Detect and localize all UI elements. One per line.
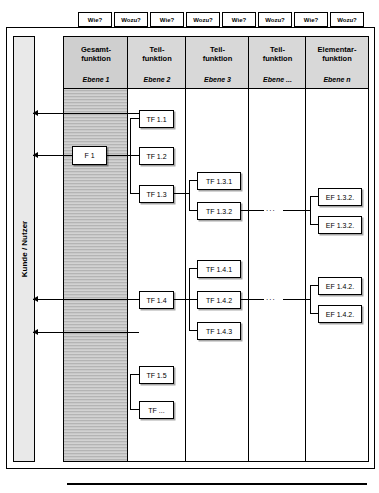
connector-ef142-spine (310, 285, 311, 313)
function-box-tf1-4-1[interactable]: TF 1.4.1 (197, 260, 241, 278)
connector-tf14-c (189, 330, 197, 331)
connector-ef142-a (310, 285, 318, 286)
function-box-tf1-4[interactable]: TF 1.4 (139, 291, 174, 309)
connector-tf14-out (172, 299, 190, 300)
connector-tf14-a (189, 268, 197, 269)
function-box-ef1-3-2-b[interactable]: EF 1.3.2. (318, 216, 362, 234)
question-box-7: Wozu? (330, 12, 364, 27)
function-box-tf1-1[interactable]: TF 1.1 (139, 110, 174, 128)
column-title-5: Elementar- funktion (306, 37, 368, 72)
question-box-5: Wozu? (258, 12, 292, 27)
customer-lane: Kunde / Nutzer (13, 36, 35, 462)
function-box-ef1-4-2-a[interactable]: EF 1.4.2. (318, 277, 362, 295)
function-box-tf1-3-1[interactable]: TF 1.3.1 (197, 172, 241, 190)
connector-tf13-a (189, 180, 197, 181)
question-box-4: Wie? (222, 12, 256, 27)
connector-ef132-a (310, 196, 318, 197)
question-box-6: Wie? (294, 12, 328, 27)
connector-tf142-ef2 (283, 299, 311, 300)
column-level-1: Ebene 1 (64, 71, 128, 89)
connector-lower-spine (130, 374, 131, 409)
connector-ef142-b (310, 313, 318, 314)
function-box-tf-dots[interactable]: TF ... (139, 401, 174, 419)
connector-tf13-b (189, 210, 197, 211)
column-title-4: Teil- funktion (249, 37, 306, 72)
function-box-tf1-4-2[interactable]: TF 1.4.2 (197, 291, 241, 309)
connector-customer-4 (33, 332, 139, 333)
connector-tf14-b (189, 299, 197, 300)
column-elementarfunktion: Elementar- funktion Ebene n (305, 36, 369, 462)
function-box-tf1-3[interactable]: TF 1.3 (139, 185, 174, 203)
column-title-1: Gesamt- funktion (64, 37, 128, 72)
connector-tf132-ef (239, 210, 264, 211)
ellipsis-lower: ... (266, 293, 276, 302)
bottom-rule (67, 483, 367, 485)
arrow-customer-3 (33, 296, 38, 302)
connector-tf13-out (172, 193, 190, 194)
question-box-0: Wie? (78, 12, 112, 27)
connector-customer-3 (33, 299, 139, 300)
connector-ef132-spine (310, 196, 311, 224)
column-gesamtfunktion: Gesamt- funktion Ebene 1 (63, 36, 129, 462)
column-level-2: Ebene 2 (128, 71, 186, 89)
question-box-3: Wozu? (186, 12, 220, 27)
column-teilfunktion-4: Teil- funktion Ebene ... (248, 36, 307, 462)
function-box-f1[interactable]: F 1 (72, 146, 107, 165)
function-box-ef1-4-2-b[interactable]: EF 1.4.2. (318, 305, 362, 323)
connector-ef132-b (310, 224, 318, 225)
function-box-tf1-3-2[interactable]: TF 1.3.2 (197, 202, 241, 220)
question-box-1: Wozu? (114, 12, 148, 27)
connector-tf142-ef (239, 299, 264, 300)
column-level-5: Ebene n (306, 71, 368, 89)
connector-tf13-spine (189, 180, 190, 210)
column-title-3: Teil- funktion (186, 37, 249, 72)
function-box-ef1-3-2-a[interactable]: EF 1.3.2. (318, 188, 362, 206)
connector-tf132-ef2 (283, 210, 311, 211)
column-title-2: Teil- funktion (128, 37, 186, 72)
column-level-4: Ebene ... (249, 71, 306, 89)
arrow-customer-1 (33, 110, 38, 116)
function-box-tf1-2[interactable]: TF 1.2 (139, 147, 174, 165)
column-teilfunktion-2: Teil- funktion Ebene 2 (127, 36, 187, 462)
customer-lane-label: Kunde / Nutzer (20, 221, 29, 277)
column-teilfunktion-3: Teil- funktion Ebene 3 (185, 36, 250, 462)
function-box-tf1-5[interactable]: TF 1.5 (139, 366, 174, 384)
ellipsis-upper: ... (266, 204, 276, 213)
question-box-2: Wie? (150, 12, 184, 27)
function-box-tf1-4-3[interactable]: TF 1.4.3 (197, 322, 241, 340)
connector-customer-1 (33, 113, 139, 114)
connector-f1-spine (130, 118, 131, 193)
column-level-3: Ebene 3 (186, 71, 249, 89)
arrow-customer-4 (33, 329, 38, 335)
arrow-customer-2 (33, 152, 38, 158)
